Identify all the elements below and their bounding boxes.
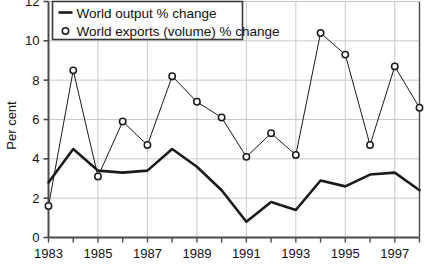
x-tick-label: 1993	[281, 246, 310, 261]
y-axis-title-label: Per cent	[4, 101, 19, 150]
data-point-marker	[45, 203, 51, 209]
data-point-marker	[416, 105, 422, 111]
data-point-marker	[367, 142, 373, 148]
x-tick-label: 1991	[232, 246, 261, 261]
y-tick-label: 12	[25, 0, 39, 9]
legend-circle-swatch	[62, 28, 68, 34]
data-point-marker	[169, 73, 175, 79]
y-tick-label: 8	[32, 73, 39, 88]
data-point-marker	[293, 152, 299, 158]
y-tick-label: 0	[32, 230, 39, 245]
legend-item-world-output: World output % change	[59, 6, 217, 21]
x-tick-label: 1983	[34, 246, 63, 261]
data-point-marker	[194, 99, 200, 105]
data-point-marker	[268, 130, 274, 136]
legend-label: World output % change	[77, 6, 217, 21]
x-tick-label: 1987	[133, 246, 162, 261]
data-point-marker	[317, 30, 323, 36]
legend-label: World exports (volume) % change	[77, 24, 280, 39]
chart-container: 024681012 198319851987198919911993199519…	[0, 0, 433, 265]
x-tick-label: 1995	[331, 246, 360, 261]
data-point-marker	[144, 142, 150, 148]
data-point-marker	[95, 173, 101, 179]
y-axis-title: Per cent	[4, 101, 19, 150]
x-tick-label: 1989	[182, 246, 211, 261]
data-point-marker	[70, 67, 76, 73]
x-tick-label: 1985	[84, 246, 113, 261]
line-chart: 024681012 198319851987198919911993199519…	[0, 0, 433, 265]
data-point-marker	[342, 51, 348, 57]
y-tick-label: 4	[32, 151, 39, 166]
data-point-marker	[120, 118, 126, 124]
y-tick-label: 6	[32, 112, 39, 127]
legend-item-world-exports: World exports (volume) % change	[62, 24, 279, 39]
data-point-marker	[218, 114, 224, 120]
y-tick-label: 10	[25, 33, 39, 48]
data-point-marker	[392, 63, 398, 69]
y-tick-label: 2	[32, 191, 39, 206]
data-point-marker	[243, 154, 249, 160]
x-tick-label: 1997	[380, 246, 409, 261]
